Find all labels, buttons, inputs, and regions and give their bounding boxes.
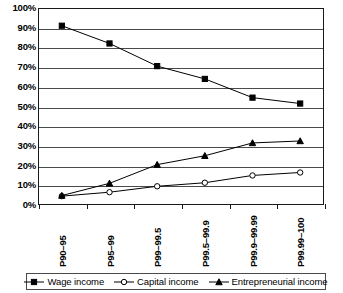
legend-label: Capital income [137,276,198,287]
data-point-marker [107,41,112,46]
data-point-marker [202,180,207,185]
series-line [62,172,300,196]
data-point-marker [32,279,37,284]
chart-legend: Wage incomeCapital incomeEntrepreneurial… [26,273,326,290]
data-point-marker [154,184,159,189]
y-axis-tick-label: 10% [2,180,36,189]
data-point-marker [121,279,126,284]
legend-entry[interactable]: Capital income [114,276,198,287]
y-axis-tick-label: 80% [2,42,36,51]
data-point-marker [202,76,207,81]
data-point-marker [106,180,112,186]
x-axis-tick [325,204,326,209]
legend-label: Entrepreneurial income [232,276,328,287]
data-point-marker [59,23,64,28]
data-point-marker [298,101,303,106]
series-capital-income [59,170,303,199]
data-point-marker [250,95,255,100]
y-axis: 100%90%80%70%60%50%40%30%20%10%0% [0,8,36,205]
x-axis-tick-label: P99.5–99.9 [200,207,211,267]
series-line [62,141,300,196]
legend-marker-filled-square-icon [24,277,44,287]
series-entrepreneurial-income [59,138,304,198]
x-axis-tick-label: P90–95 [57,207,68,267]
x-axis-tick-label: P99.99–100 [295,207,306,267]
x-axis-tick-label: P99.9–99.99 [248,207,259,267]
legend-marker-open-circle-icon [114,277,134,287]
legend-marker-filled-triangle-icon [209,277,229,287]
data-point-marker [297,170,302,175]
x-axis-tick-label: P99–99.5 [152,207,163,267]
legend-entry[interactable]: Wage income [24,276,104,287]
chart-data-layer [38,8,324,205]
data-point-marker [250,173,255,178]
series-wage-income [59,23,303,106]
data-point-marker [107,189,112,194]
y-axis-tick-label: 100% [2,3,36,12]
legend-entry[interactable]: Entrepreneurial income [209,276,328,287]
y-axis-tick-label: 30% [2,141,36,150]
y-axis-tick-label: 50% [2,102,36,111]
x-axis-tick-label: P95–99 [105,207,116,267]
x-axis: P90–95P95–99P99–99.5P99.5–99.9P99.9–99.9… [38,207,324,267]
y-axis-tick-label: 40% [2,121,36,130]
y-axis-tick-label: 70% [2,62,36,71]
y-axis-tick-label: 60% [2,82,36,91]
data-point-marker [155,64,160,69]
y-axis-tick-label: 20% [2,161,36,170]
series-line [62,26,300,104]
income-composition-chart: 100%90%80%70%60%50%40%30%20%10%0% P90–95… [0,0,343,293]
y-axis-tick-label: 90% [2,23,36,32]
y-axis-tick-label: 0% [2,200,36,209]
legend-label: Wage income [47,276,104,287]
